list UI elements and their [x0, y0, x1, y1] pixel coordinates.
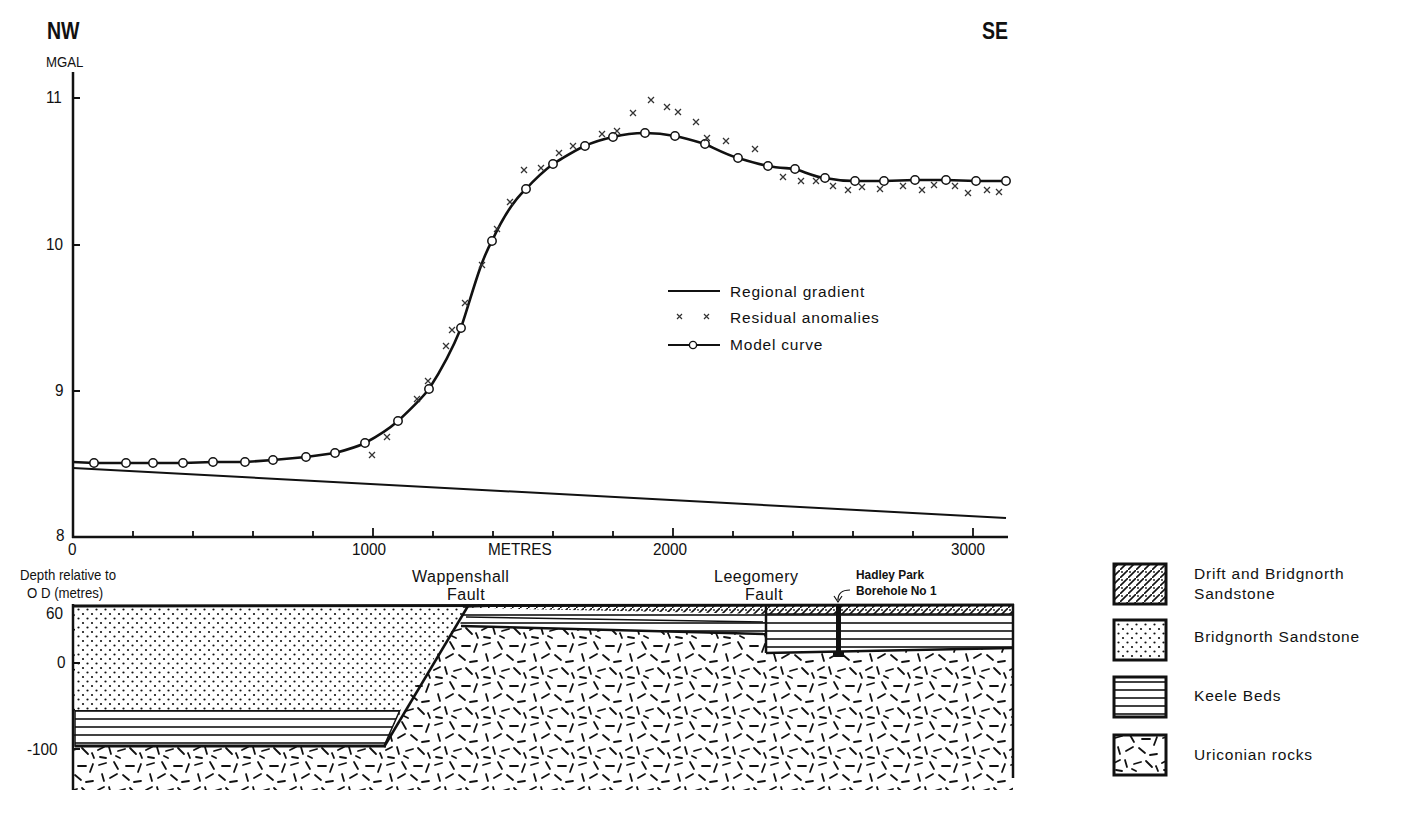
legend-line-circle-icon	[668, 341, 720, 348]
legend-cross-icon	[677, 314, 709, 319]
legend-uriconian-swatch	[1112, 733, 1168, 777]
legend-uriconian-label: Uriconian rocks	[1194, 746, 1313, 764]
legend-bridgnorth-label: Bridgnorth Sandstone	[1194, 628, 1360, 646]
section-top-line	[73, 605, 1014, 606]
hadley-park-borehole	[836, 604, 841, 656]
x-axis-ticks	[133, 528, 973, 537]
east-drift	[766, 606, 1013, 614]
legend-keele-swatch	[1112, 675, 1168, 719]
legend-drift-label-1: Drift and Bridgnorth	[1194, 565, 1344, 583]
model-curve-line	[73, 133, 1006, 463]
residual-anomaly-points	[369, 97, 1002, 458]
legend-drift-swatch	[1112, 562, 1168, 606]
west-keele-beds	[75, 710, 400, 746]
cross-section	[73, 590, 1014, 790]
legend-drift-label-2: Sandstone	[1194, 585, 1275, 603]
regional-gradient-line	[73, 468, 1006, 518]
legend-bridgnorth-swatch	[1112, 618, 1168, 662]
legend-keele-label: Keele Beds	[1194, 687, 1281, 705]
gravity-chart	[72, 72, 1010, 538]
model-curve-points	[90, 129, 1010, 467]
plot-legend-symbols	[668, 291, 720, 349]
